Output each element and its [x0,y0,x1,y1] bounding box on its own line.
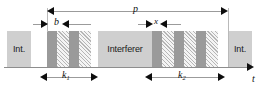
block-interferer-middle: Interferer [98,31,152,67]
block-interferer-left-label: Int. [13,45,25,54]
slot-bar-4 [79,31,91,67]
block-interferer-right: Int. [228,31,252,67]
slot-bar-3 [69,31,79,67]
time-axis-arrowhead [247,63,254,71]
x-dimension-line-right [167,24,181,25]
k1-arrowhead-right [91,73,98,81]
k1-subscript: 1 [66,74,69,81]
x-arrowhead-right [160,20,167,28]
b-dimension-label: b [54,17,59,27]
p-arrowhead-left [47,7,54,15]
block-interferer-left: Int. [7,31,31,67]
k2-arrowhead-left [145,73,152,81]
k1-arrowhead-left [40,73,47,81]
k2-subscript: 2 [182,74,185,81]
slot-bar-2 [57,31,69,67]
slot-bar-5 [152,31,162,67]
slot-bar-8 [184,31,196,67]
block-interferer-right-label: Int. [234,45,246,54]
k2-arrowhead-right [218,73,225,81]
slot-bar-10 [206,31,218,67]
slot-bar-7 [174,31,184,67]
x-arrowhead-left [146,20,153,28]
b-dimension-line-right [69,24,91,25]
p-extension-right [228,8,229,67]
b-arrowhead-right [62,20,69,28]
p-dimension-label: p [133,4,138,14]
slot-bar-1 [47,31,57,67]
k2-dimension-label: k2 [178,70,186,80]
k1-dimension-label: k1 [62,70,70,80]
time-axis-label: t [252,74,255,84]
time-axis-line [4,67,249,68]
figure-canvas: Int. Interferer Int. t p b x k1 [0,0,265,91]
x-dimension-label: x [154,17,158,26]
block-interferer-middle-label: Interferer [107,45,143,54]
b-arrowhead-left [41,20,48,28]
slot-bar-6 [162,31,174,67]
p-dimension-line [52,11,224,12]
slot-bar-9 [196,31,206,67]
p-arrowhead-right [221,7,228,15]
